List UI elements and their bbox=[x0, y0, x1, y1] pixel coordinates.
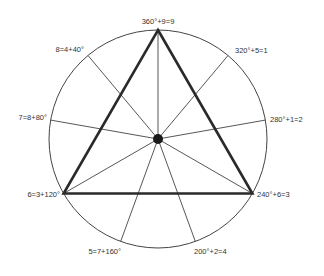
center-dot bbox=[153, 134, 163, 144]
label-360: 360°+9=9 bbox=[142, 17, 175, 26]
spoke-40 bbox=[88, 56, 158, 140]
label-280: 280°+1=2 bbox=[270, 115, 303, 124]
spoke-240 bbox=[158, 139, 252, 194]
label-40: 8=4+40° bbox=[56, 45, 84, 54]
enneagram-diagram: 360°+9=9 320°+5=1 280°+1=2 240°+6=3 200°… bbox=[0, 0, 324, 276]
label-80: 7=8+80° bbox=[19, 113, 47, 122]
spoke-120 bbox=[64, 139, 158, 194]
label-120: 6=3+120° bbox=[27, 190, 60, 199]
spoke-320 bbox=[158, 56, 228, 140]
label-200: 200°+2=4 bbox=[194, 247, 227, 256]
spoke-160 bbox=[121, 139, 158, 241]
label-240: 240°+6=3 bbox=[257, 190, 290, 199]
label-320: 320°+5=1 bbox=[235, 46, 268, 55]
label-160: 5=7+160° bbox=[88, 247, 121, 256]
spoke-200 bbox=[158, 139, 195, 241]
